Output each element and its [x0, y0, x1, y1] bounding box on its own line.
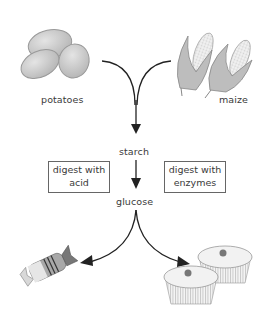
glucose-label: glucose	[116, 196, 153, 207]
potatoes-label: potatoes	[41, 94, 84, 105]
starch-label: starch	[119, 146, 149, 157]
enzymes-method-line2: enzymes	[165, 176, 225, 189]
enzymes-method-line1: digest with	[165, 163, 225, 176]
acid-method-box: digest with acid	[48, 161, 110, 193]
acid-method-line2: acid	[49, 176, 109, 189]
diagram-canvas: potatoes maize starch glucose digest wit…	[0, 0, 270, 324]
cupcakes-icon	[0, 0, 270, 324]
acid-method-line1: digest with	[49, 163, 109, 176]
maize-label: maize	[219, 94, 248, 105]
enzymes-method-box: digest with enzymes	[164, 161, 226, 193]
